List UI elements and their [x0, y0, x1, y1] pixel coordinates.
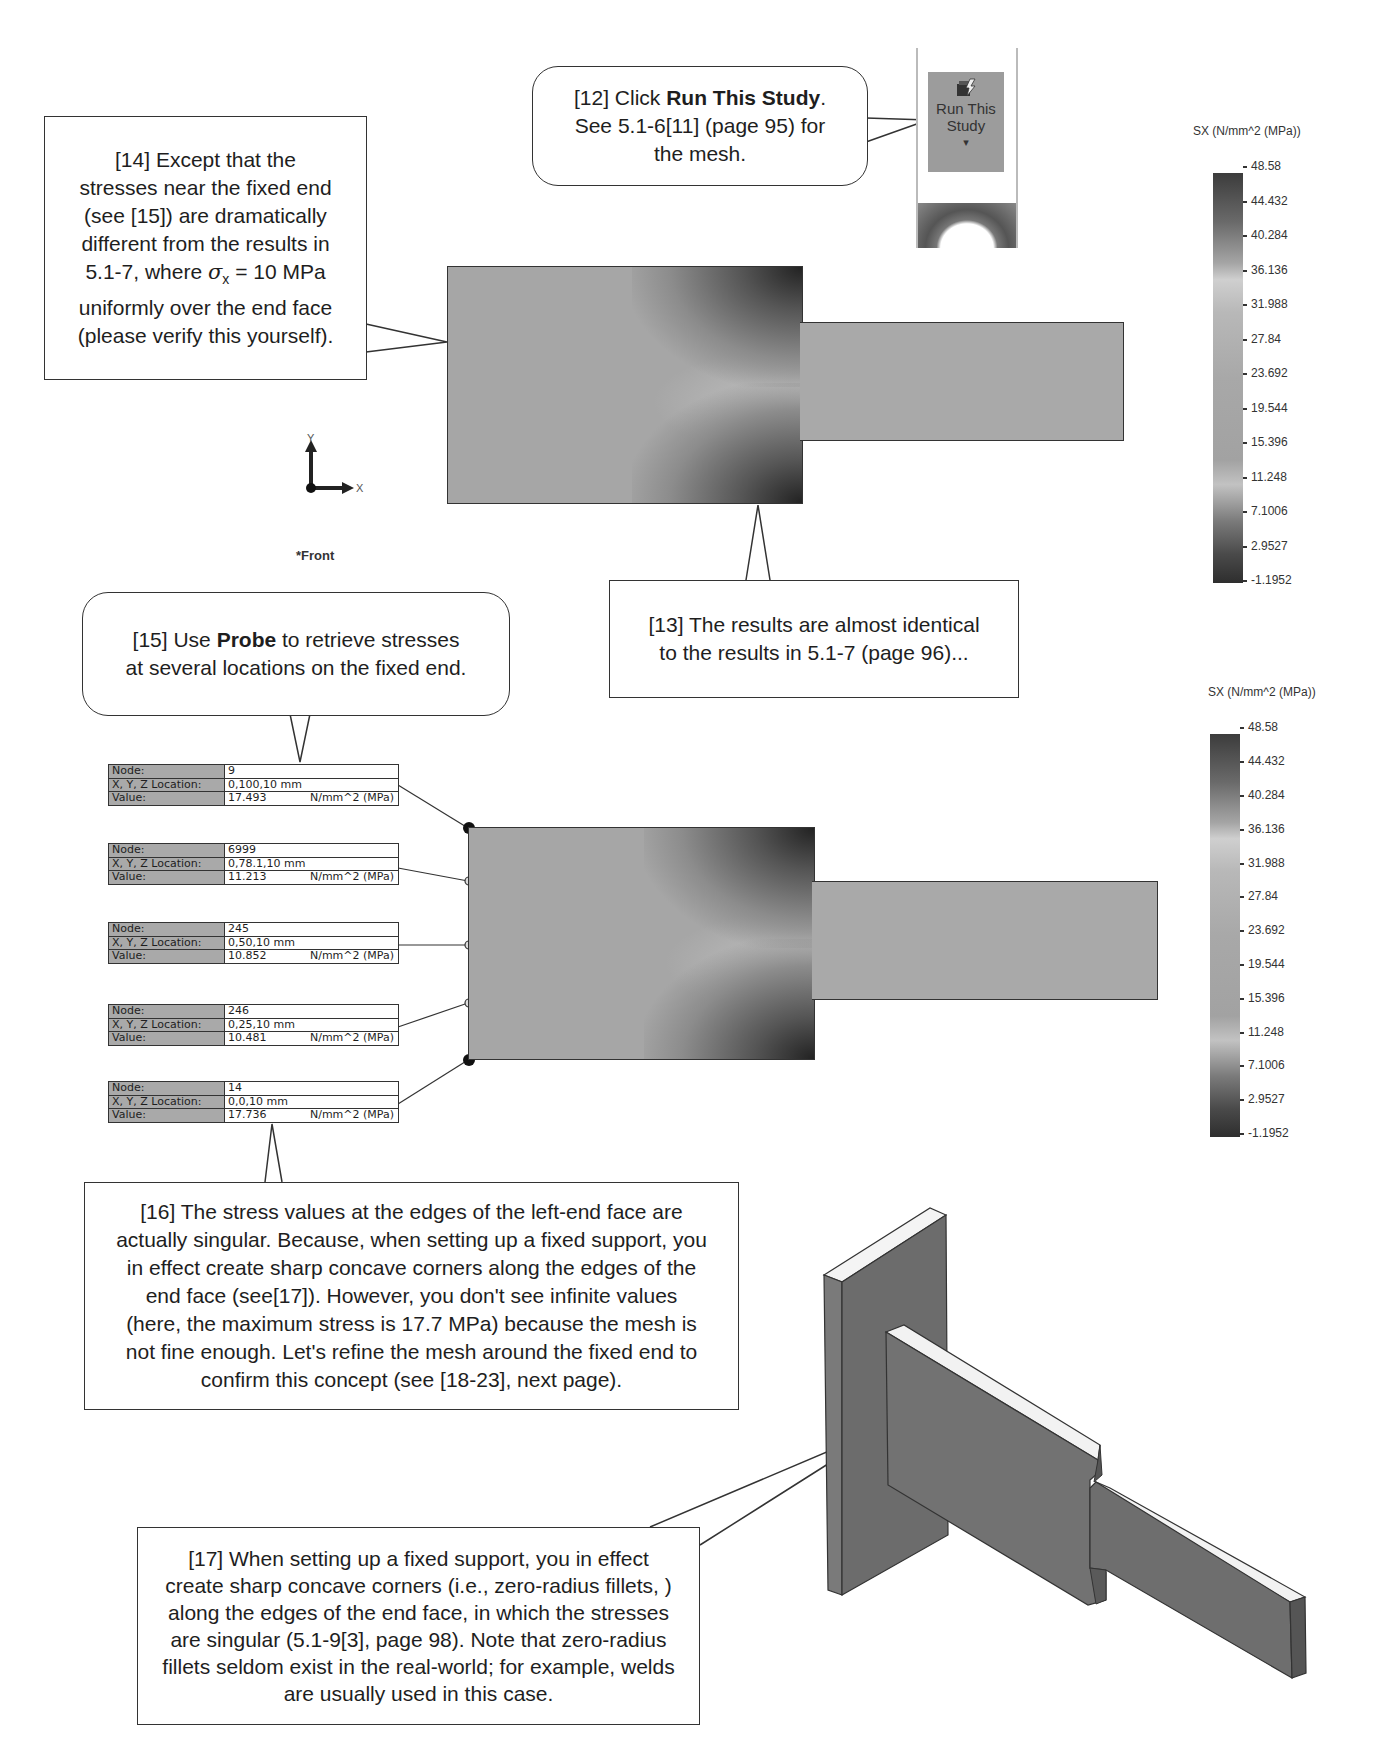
callout-step-17: [17] When setting up a fixed support, yo… — [137, 1527, 700, 1725]
probe-result-node-9: Node:9 X, Y, Z Location:0,100,10 mm Valu… — [108, 764, 399, 806]
triad-x-label: X — [356, 482, 363, 494]
callout-step-14: [14] Except that the stresses near the f… — [44, 116, 367, 380]
callout-step-16: [16] The stress values at the edges of t… — [84, 1182, 739, 1410]
view-orientation-label: *Front — [296, 548, 334, 563]
run-study-icon — [955, 78, 977, 98]
callout-step-12: [12] Click Run This Study. See 5.1-6[11]… — [532, 66, 868, 186]
callout-step-13: [13] The results are almost identical to… — [609, 580, 1019, 698]
stress-concentration-top — [632, 267, 802, 387]
probe-result-node-14: Node:14 X, Y, Z Location:0,0,10 mm Value… — [108, 1081, 399, 1123]
legend-title: SX (N/mm^2 (MPa)) — [1208, 685, 1316, 699]
probe-label: Probe — [217, 628, 277, 651]
stress-concentration-bottom — [632, 383, 802, 503]
plot-wide-section — [468, 827, 815, 1060]
probe-result-node-6999: Node:6999 X, Y, Z Location:0,78.1,10 mm … — [108, 843, 399, 885]
probe-result-node-246: Node:246 X, Y, Z Location:0,25,10 mm Val… — [108, 1004, 399, 1046]
stress-concentration-top — [644, 828, 814, 948]
beam-wide-section — [886, 1332, 1106, 1605]
triad-y-label: Y — [307, 432, 314, 444]
stress-concentration-bottom — [644, 939, 814, 1059]
callout-step-15: [15] Use Probe to retrieve stresses at s… — [82, 592, 510, 716]
plot-wide-section — [447, 266, 803, 504]
legend-colorbar — [1213, 173, 1243, 583]
isometric-model-view — [800, 1190, 1360, 1740]
dropdown-arrow-icon[interactable]: ▾ — [928, 134, 1004, 151]
plot-narrow-section — [812, 881, 1158, 1000]
run-this-study-label: Run This Study — [666, 86, 820, 109]
run-this-study-button[interactable]: Run This Study ▾ — [928, 72, 1004, 172]
legend-colorbar — [1210, 734, 1240, 1137]
plot-narrow-section — [800, 322, 1124, 441]
ribbon-shadow — [918, 203, 1016, 248]
ribbon-panel: Run This Study ▾ — [916, 48, 1018, 248]
legend-title: SX (N/mm^2 (MPa)) — [1193, 124, 1301, 138]
probe-result-node-245: Node:245 X, Y, Z Location:0,50,10 mm Val… — [108, 922, 399, 964]
